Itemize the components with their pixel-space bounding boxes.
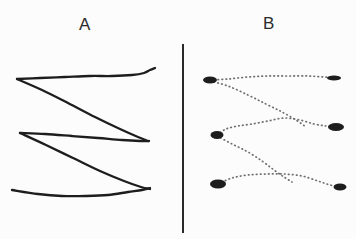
vertex-blob-2 <box>327 76 341 81</box>
figure-canvas <box>0 0 356 239</box>
vertex-blob-5 <box>210 180 226 189</box>
figure-background <box>0 0 356 239</box>
panel-label-b: B <box>263 15 275 32</box>
vertex-blob-3 <box>211 131 224 139</box>
vertex-blob-1 <box>203 77 217 84</box>
vertex-blob-4 <box>328 123 344 131</box>
figure-container: A B <box>0 0 356 239</box>
vertex-blob-6 <box>334 184 347 191</box>
panel-label-a: A <box>79 16 91 33</box>
